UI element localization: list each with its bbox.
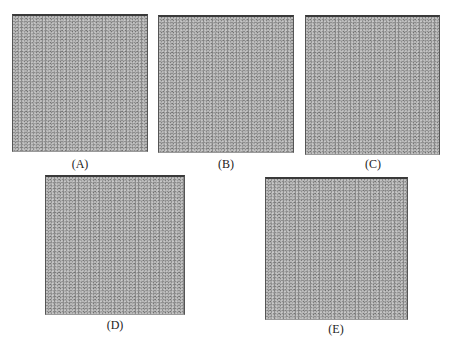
panel-label-c: (C) — [353, 157, 393, 171]
texture-panel-d — [45, 175, 185, 315]
texture-panel-c — [305, 15, 440, 155]
texture-panel-a — [12, 14, 148, 152]
texture-panel-e — [265, 177, 408, 320]
panel-label-b: (B) — [206, 157, 246, 171]
texture-panel-b — [158, 15, 294, 153]
panel-label-d: (D) — [95, 318, 135, 332]
panel-label-a: (A) — [60, 157, 100, 171]
panel-label-e: (E) — [316, 322, 356, 336]
